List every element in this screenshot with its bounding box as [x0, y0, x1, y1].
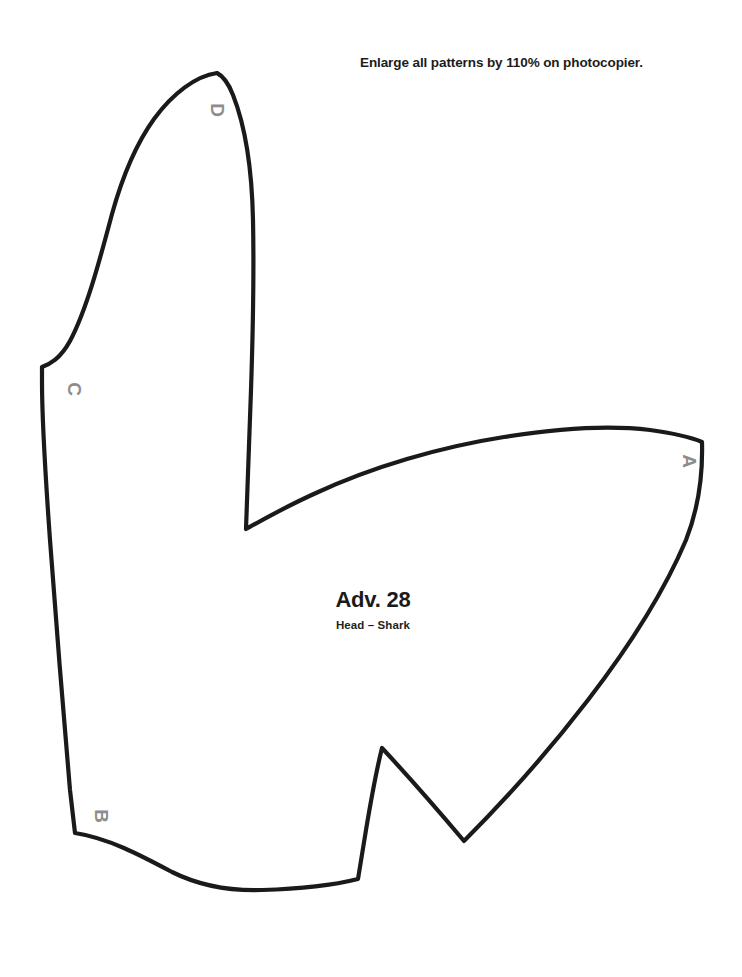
- pattern-caption: Adv. 28 Head – Shark: [273, 588, 473, 631]
- pattern-piece-name: Head – Shark: [273, 619, 473, 631]
- pattern-number: Adv. 28: [273, 588, 473, 611]
- notch-label-b: B: [91, 809, 112, 823]
- pattern-outline-drawing: A B C D: [0, 0, 742, 977]
- shark-head-pattern-path: [42, 73, 702, 890]
- pattern-page: Enlarge all patterns by 110% on photocop…: [0, 0, 742, 977]
- notch-label-c: C: [64, 382, 85, 396]
- notch-label-d: D: [207, 103, 228, 117]
- notch-label-a: A: [679, 454, 700, 468]
